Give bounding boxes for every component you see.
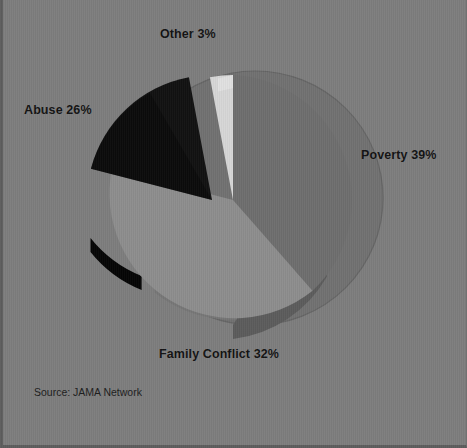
pie-chart (0, 0, 467, 448)
slice-label-family-conflict: Family Conflict 32% (159, 347, 279, 361)
slice-label-abuse: Abuse 26% (24, 103, 92, 117)
slice-label-poverty: Poverty 39% (361, 148, 436, 162)
source-note: Source: JAMA Network (34, 386, 142, 398)
chart-canvas: Other 3% Abuse 26% Poverty 39% Family Co… (0, 0, 467, 448)
slice-label-other: Other 3% (160, 27, 216, 41)
